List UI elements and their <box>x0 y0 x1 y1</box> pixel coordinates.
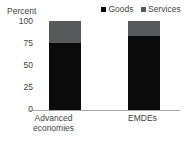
bar-segment-services-advanced[interactable] <box>49 21 81 43</box>
x-label-advanced-economies: Advanced economies <box>26 113 81 133</box>
bar-segment-goods-advanced[interactable] <box>49 43 81 110</box>
bar-emdes[interactable] <box>128 21 160 110</box>
legend-label-services: Services <box>148 5 181 14</box>
chart-legend: Goods Services <box>101 5 181 14</box>
legend-swatch-goods-icon <box>101 7 106 12</box>
y-tick-50: 50 <box>3 61 33 70</box>
y-tick-75: 75 <box>3 39 33 48</box>
x-axis-line <box>28 110 180 111</box>
y-tick-25: 25 <box>3 83 33 92</box>
plot-area <box>36 21 181 110</box>
legend-item-services[interactable]: Services <box>141 5 181 14</box>
x-label-emdes: EMDEs <box>115 113 170 123</box>
legend-item-goods[interactable]: Goods <box>101 5 134 14</box>
stacked-bar-chart: Percent Goods Services 100 75 50 25 0 Ad… <box>0 0 185 141</box>
y-tick-100: 100 <box>3 17 33 26</box>
bar-segment-goods-emdes[interactable] <box>128 36 160 110</box>
legend-swatch-services-icon <box>141 7 146 12</box>
bar-advanced-economies[interactable] <box>49 21 81 110</box>
bar-segment-services-emdes[interactable] <box>128 21 160 36</box>
legend-label-goods: Goods <box>109 5 134 14</box>
